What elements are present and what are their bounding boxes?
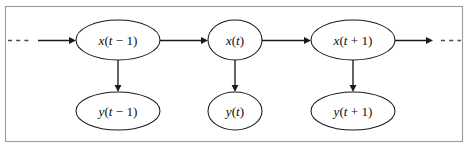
arrowhead-x-tp1-to-y-tp1 — [350, 85, 357, 92]
arrowhead-past-to-x-tm1 — [69, 37, 76, 44]
arrowhead-x-t-to-y-t — [232, 85, 239, 92]
time-slice-diagram: x(t − 1) x(t) x(t + 1) y(t − 1) y(t) y(t… — [0, 0, 468, 148]
node-y-t-minus-1[interactable]: y(t − 1) — [76, 92, 160, 130]
node-y-t-plus-1[interactable]: y(t + 1) — [311, 92, 395, 130]
node-x-t-minus-1-label: x(t − 1) — [98, 33, 138, 48]
node-y-t[interactable]: y(t) — [208, 92, 262, 130]
node-x-t[interactable]: x(t) — [208, 20, 262, 60]
node-y-t-plus-1-label: y(t + 1) — [332, 104, 373, 119]
figure-root: x(t − 1) x(t) x(t + 1) y(t − 1) y(t) y(t… — [0, 0, 468, 148]
node-x-t-minus-1[interactable]: x(t − 1) — [76, 20, 160, 60]
node-x-t-plus-1-label: x(t + 1) — [333, 33, 373, 48]
arrowhead-x-t-to-x-tp1 — [304, 37, 311, 44]
node-x-t-plus-1[interactable]: x(t + 1) — [311, 20, 395, 60]
arrowhead-x-tm1-to-x-t — [201, 37, 208, 44]
node-x-t-label: x(t) — [225, 33, 244, 48]
arrowhead-x-tm1-to-y-tm1 — [115, 85, 122, 92]
node-y-t-minus-1-label: y(t − 1) — [97, 104, 138, 119]
arrowhead-x-tp1-to-future — [426, 37, 433, 44]
node-y-t-label: y(t) — [224, 104, 244, 119]
